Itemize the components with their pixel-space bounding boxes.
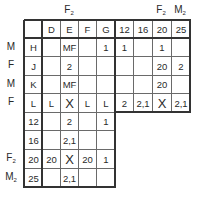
grid-cell: 1 xyxy=(96,38,116,57)
grid-cell: 1 xyxy=(96,112,116,131)
grid-cell: 2,1 xyxy=(171,93,191,113)
grid-cell: 2 xyxy=(115,93,134,113)
grid-cell: 2 xyxy=(60,56,79,76)
grid-divider xyxy=(41,20,43,188)
row-sex-label: M2 xyxy=(4,171,18,183)
grid-cell xyxy=(42,168,61,188)
label-subscript: 2 xyxy=(14,177,17,183)
grid-cell xyxy=(133,38,153,57)
grid-cell: 20 xyxy=(78,149,97,169)
grid-cell xyxy=(42,130,61,150)
grid-cell: L xyxy=(96,93,116,113)
grid-cell: X xyxy=(152,93,172,113)
row-sex-label: F xyxy=(4,59,18,70)
label-subscript: 2 xyxy=(183,10,186,16)
grid-cell xyxy=(96,168,116,188)
grid-cell: 20 xyxy=(152,75,172,94)
grid-cell xyxy=(96,56,116,76)
grid-cell: X xyxy=(60,93,79,113)
grid-cell: 2,1 xyxy=(60,168,79,188)
grid-cell xyxy=(96,130,116,150)
row-sex-label: M xyxy=(4,78,18,89)
grid-cell xyxy=(42,38,61,57)
grid-cell: 1 xyxy=(115,38,134,57)
grid-cell xyxy=(115,56,134,76)
grid-cell: L xyxy=(42,93,61,113)
grid-cell: L xyxy=(78,93,97,113)
row-sex-label: F2 xyxy=(4,152,18,164)
grid-cell xyxy=(96,75,116,94)
grid-divider xyxy=(24,19,191,21)
grid-cell xyxy=(42,112,61,131)
grid-cell: 2,1 xyxy=(133,93,153,113)
row-sex-label: M xyxy=(4,41,18,52)
grid-cell xyxy=(78,56,97,76)
grid-divider xyxy=(114,20,116,188)
grid-cell: 20 xyxy=(42,149,61,169)
grid-cell: 1 xyxy=(152,38,172,57)
label-text: M xyxy=(7,41,15,52)
grid-cell: 1 xyxy=(96,149,116,169)
column-group-label: F2 xyxy=(60,4,78,16)
label-subscript: 2 xyxy=(162,10,165,16)
label-text: M xyxy=(5,171,13,182)
grid-cell: MF xyxy=(60,38,79,57)
label-text: F xyxy=(8,96,14,107)
label-text: F xyxy=(8,59,14,70)
grid-divider xyxy=(23,20,25,188)
grid-cell: X xyxy=(60,149,79,169)
grid-divider xyxy=(115,111,191,113)
grid-divider xyxy=(24,186,116,188)
grid-cell xyxy=(78,130,97,150)
label-text: M xyxy=(7,78,15,89)
grid-cell xyxy=(78,75,97,94)
grid-cell: 2 xyxy=(60,112,79,131)
grid-divider xyxy=(24,37,191,39)
label-text: M xyxy=(174,4,182,15)
grid-cell xyxy=(171,38,191,57)
label-subscript: 2 xyxy=(12,158,15,164)
grid-cell xyxy=(78,168,97,188)
grid-cell xyxy=(42,56,61,76)
grid-cell: 2 xyxy=(171,56,191,76)
grid-cell xyxy=(171,75,191,94)
grid-cell xyxy=(78,38,97,57)
row-sex-label: F xyxy=(4,96,18,107)
column-group-label: F2 xyxy=(152,4,170,16)
grid-cell xyxy=(133,75,153,94)
grid-divider xyxy=(189,20,191,113)
grid-cell xyxy=(78,112,97,131)
grid-cell: 20 xyxy=(152,56,172,76)
grid-cell xyxy=(115,75,134,94)
label-subscript: 2 xyxy=(70,10,73,16)
grid-cell xyxy=(42,75,61,94)
column-group-label: M2 xyxy=(171,4,189,16)
grid-cell: MF xyxy=(60,75,79,94)
grid-cell: 2,1 xyxy=(60,130,79,150)
grid-cell xyxy=(133,56,153,76)
